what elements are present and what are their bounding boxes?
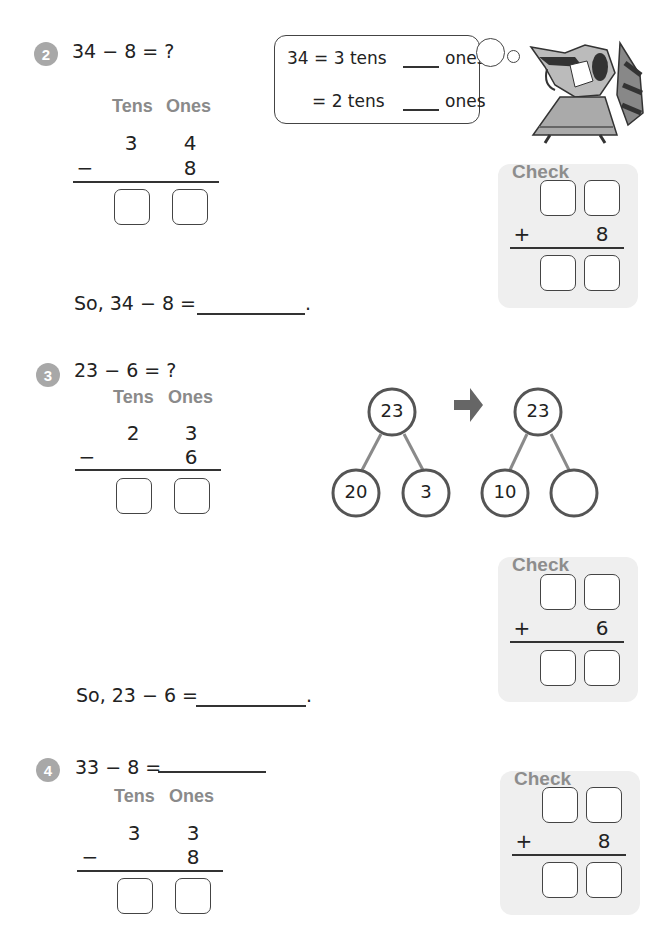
ones-header: Ones (169, 786, 214, 807)
plus-sign: + (512, 222, 532, 246)
top-ones-digit: 4 (180, 131, 200, 155)
check-panel: Check + 6 (498, 557, 638, 702)
answer-blank[interactable] (197, 313, 305, 315)
check-ones-box-top[interactable] (584, 180, 620, 216)
answer-tens-box[interactable] (114, 189, 150, 225)
check-ones-box-top[interactable] (586, 787, 622, 823)
problem-equation: 34 − 8 = ? (72, 40, 174, 62)
right-arrow-icon (454, 388, 488, 422)
answer-blank[interactable] (158, 771, 266, 773)
check-tens-box-top[interactable] (540, 574, 576, 610)
check-title: Check (512, 554, 569, 576)
check-ones-box-bottom[interactable] (584, 255, 620, 291)
question-number-badge: 4 (36, 758, 60, 782)
top-tens-digit: 2 (123, 421, 143, 445)
top-ones-digit: 3 (181, 421, 201, 445)
bond-2-whole: 23 (518, 400, 558, 421)
thought-bubble: 34 = 3 tens ones = 2 tens ones (274, 35, 480, 124)
bond-2-part-1: 10 (485, 481, 525, 502)
thought-line-2-suffix: ones (445, 91, 486, 111)
check-tens-box-bottom[interactable] (540, 255, 576, 291)
check-addend: 8 (594, 829, 614, 853)
check-sum-line (510, 641, 624, 643)
sum-line (75, 469, 221, 471)
ones-header: Ones (166, 96, 211, 117)
check-ones-box-top[interactable] (584, 574, 620, 610)
thought-blank-1[interactable] (403, 66, 439, 68)
raccoon-mascot-icon (525, 35, 655, 145)
answer-ones-box[interactable] (174, 478, 210, 514)
thought-bubble-circle-small (507, 50, 520, 63)
bottom-ones-digit: 6 (181, 445, 201, 469)
tens-header: Tens (114, 786, 155, 807)
answer-ones-box[interactable] (172, 189, 208, 225)
check-tens-box-top[interactable] (540, 180, 576, 216)
check-tens-box-bottom[interactable] (542, 862, 578, 898)
check-sum-line (512, 854, 626, 856)
minus-sign: − (80, 845, 100, 869)
top-tens-digit: 3 (124, 821, 144, 845)
conclusion-text: So, 23 − 6 = (76, 684, 198, 706)
thought-bubble-circle-large (476, 38, 505, 67)
top-ones-digit: 3 (183, 821, 203, 845)
check-panel: Check + 8 (498, 164, 638, 308)
tens-header: Tens (112, 96, 153, 117)
check-tens-box-top[interactable] (542, 787, 578, 823)
check-ones-box-bottom[interactable] (586, 862, 622, 898)
sum-line (73, 181, 219, 183)
question-number-badge: 3 (36, 363, 60, 387)
check-sum-line (510, 247, 624, 249)
problem-equation: 33 − 8 = (75, 756, 161, 778)
bond-2-part-2-blank[interactable] (554, 481, 594, 505)
answer-tens-box[interactable] (116, 478, 152, 514)
question-number-badge: 2 (34, 42, 58, 66)
top-tens-digit: 3 (121, 131, 141, 155)
thought-blank-2[interactable] (403, 109, 439, 111)
problem-equation: 23 − 6 = ? (74, 359, 176, 381)
conclusion-text: So, 34 − 8 = (74, 292, 196, 314)
minus-sign: − (75, 156, 95, 180)
answer-tens-box[interactable] (117, 878, 153, 914)
thought-line-1-prefix: 34 = 3 tens (287, 48, 387, 68)
plus-sign: + (512, 616, 532, 640)
thought-line-2-prefix: = 2 tens (312, 91, 385, 111)
bond-1-whole: 23 (372, 400, 412, 421)
answer-ones-box[interactable] (175, 878, 211, 914)
conclusion-period: . (305, 292, 311, 314)
bond-1-part-1: 20 (336, 481, 376, 502)
minus-sign: − (77, 445, 97, 469)
check-addend: 8 (592, 222, 612, 246)
conclusion-period: . (306, 684, 312, 706)
check-addend: 6 (592, 616, 612, 640)
tens-header: Tens (113, 387, 154, 408)
ones-header: Ones (168, 387, 213, 408)
check-tens-box-bottom[interactable] (540, 650, 576, 686)
bond-1-part-2: 3 (406, 481, 446, 502)
bottom-ones-digit: 8 (180, 156, 200, 180)
plus-sign: + (514, 829, 534, 853)
sum-line (77, 870, 223, 872)
bottom-ones-digit: 8 (183, 845, 203, 869)
check-panel: Check + 8 (500, 771, 640, 915)
check-ones-box-bottom[interactable] (584, 650, 620, 686)
answer-blank[interactable] (196, 705, 306, 707)
